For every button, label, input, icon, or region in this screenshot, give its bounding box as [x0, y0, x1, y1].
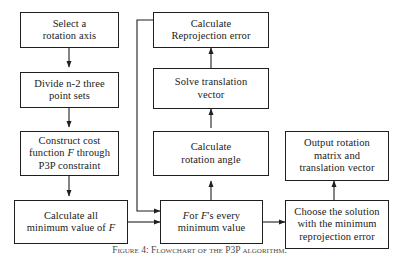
node-select-rotation-axis[interactable]: Select a rotation axis: [20, 12, 119, 48]
node-calculate-minimum-values[interactable]: Calculate all minimum value of F: [14, 200, 128, 244]
node-divide-point-sets[interactable]: Divide n-2 three point sets: [20, 72, 119, 108]
node-label: Construct cost function F through P3P co…: [23, 135, 116, 172]
edge-reprojection-feedback: [137, 20, 160, 211]
node-label: Select a rotation axis: [23, 18, 116, 43]
node-construct-cost-function[interactable]: Construct cost function F through P3P co…: [20, 131, 119, 176]
node-label: Calculate all minimum value of F: [17, 210, 125, 235]
node-label: Calculate Reprojection error: [156, 18, 266, 43]
node-for-every-minimum-value[interactable]: For F's every minimum value: [160, 200, 263, 244]
node-calculate-rotation-angle[interactable]: Calculate rotation angle: [153, 131, 269, 176]
flowchart-figure: Select a rotation axis Divide n-2 three …: [0, 0, 399, 258]
node-label: For F's every minimum value: [163, 210, 260, 235]
node-label: Choose the solution with the minimum rep…: [288, 206, 386, 243]
node-calculate-reprojection-error[interactable]: Calculate Reprojection error: [153, 12, 269, 48]
node-solve-translation-vector[interactable]: Solve translation vector: [153, 68, 269, 109]
node-choose-solution[interactable]: Choose the solution with the minimum rep…: [285, 200, 389, 249]
node-label: Output rotation matrix and translation v…: [288, 137, 386, 174]
node-output-rotation-matrix[interactable]: Output rotation matrix and translation v…: [285, 131, 389, 181]
node-label: Solve translation vector: [156, 76, 266, 101]
node-label: Calculate rotation angle: [156, 141, 266, 166]
node-label: Divide n-2 three point sets: [23, 78, 116, 103]
